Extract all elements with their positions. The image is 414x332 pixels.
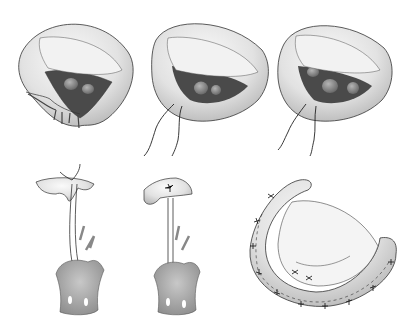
illustration-svg bbox=[0, 0, 414, 332]
valve-panel-3 bbox=[278, 26, 392, 156]
chord-panel-1 bbox=[36, 164, 104, 315]
valve-panel-1 bbox=[19, 24, 133, 128]
valve-panel-2 bbox=[144, 24, 268, 156]
ring-panel bbox=[250, 180, 396, 309]
chord-panel-2 bbox=[144, 178, 200, 315]
medical-illustration bbox=[0, 0, 414, 332]
